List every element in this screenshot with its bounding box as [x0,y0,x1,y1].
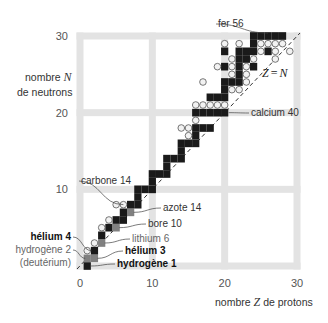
stable-nuclide [185,140,192,148]
annotation-label: hélium 4 [30,231,71,242]
stable-nuclide [163,163,170,171]
stable-nuclide [113,224,120,232]
unstable-nuclide [200,102,207,109]
unstable-nuclide [185,125,192,132]
unstable-nuclide [221,102,228,109]
unstable-nuclide [221,40,228,47]
unstable-nuclide [250,56,257,63]
stable-nuclide [156,170,163,178]
annotation-label: hydrogène 2 [15,244,71,255]
unstable-nuclide [178,125,185,132]
stable-nuclide [250,40,257,48]
unstable-nuclide [185,132,192,139]
annotation-label: azote 14 [163,202,202,213]
stable-nuclide [149,178,156,186]
annotation-leader [134,208,161,212]
stable-nuclide [120,216,127,224]
annotation-label: hydrogène 1 [117,258,177,269]
grid-line-horizontal [77,263,301,270]
stable-nuclide [141,186,148,194]
stable-nuclide [170,155,177,163]
stable-nuclide [192,140,199,148]
y-axis-title-line1: nombre N [25,70,73,84]
unstable-nuclide [258,48,265,55]
stable-nuclide [221,86,228,94]
stable-nuclide [178,140,185,148]
y-tick-label: 20 [56,107,68,119]
stable-nuclide [199,109,206,117]
stable-nuclide [120,209,127,217]
stable-nuclide [264,48,271,56]
grid-line-vertical [77,33,84,270]
stable-nuclide [236,55,243,63]
stable-nuclide [134,193,141,201]
stable-nuclide [236,71,243,79]
unstable-nuclide [243,79,250,86]
unstable-nuclide [243,71,250,78]
y-tick-label: 10 [56,183,68,195]
annotation-label: bore 10 [148,218,182,229]
annotation-label: fer 56 [218,18,244,29]
y-axis-title-line2: de neutrons [17,86,72,98]
unstable-nuclide [286,48,293,55]
unstable-nuclide [236,40,243,47]
stable-nuclide [250,63,257,71]
stable-nuclide [214,109,221,117]
stable-nuclide [221,48,228,56]
unstable-nuclide [229,56,236,63]
stable-nuclide [98,232,105,240]
stable-nuclide [221,78,228,86]
stable-nuclide [134,201,141,209]
annotation-label: carbone 14 [81,175,131,186]
stable-nuclide [221,63,228,71]
x-tick-label: 10 [146,277,158,289]
unstable-nuclide [229,63,236,70]
stable-nuclide [149,186,156,194]
y-tick-label: 30 [56,30,68,42]
stable-nuclide [236,63,243,71]
annotation-leader [105,239,130,243]
stable-nuclide [250,32,257,40]
unstable-nuclide [229,86,236,93]
unstable-nuclide [200,79,207,86]
unstable-nuclide [91,240,98,247]
stable-nuclide [207,124,214,132]
unstable-nuclide [272,56,279,63]
annotation-leader [119,224,146,228]
unstable-nuclide [207,102,214,109]
x-tick-label: 30 [291,277,303,289]
nuclide-chart: 0102030102030 fer 56calcium 40carbone 14… [0,0,328,323]
stable-nuclide [91,247,98,255]
stable-nuclide [236,48,243,56]
unstable-nuclide [214,63,221,70]
stable-nuclide [236,78,243,86]
diagonal-label: Z=N [262,66,288,80]
stable-nuclide [178,155,185,163]
unstable-nuclide [272,48,279,55]
stable-nuclide [207,109,214,117]
unstable-nuclide [272,40,279,47]
stable-nuclide [127,201,134,209]
stable-nuclide [134,186,141,194]
stable-nuclide [243,55,250,63]
stable-nuclide [279,32,286,40]
annotation-label: lithium 6 [132,233,170,244]
unstable-nuclide [106,217,113,224]
stable-nuclide [113,216,120,224]
stable-nuclide [257,32,264,40]
x-tick-label: 0 [77,277,83,289]
stable-nuclide [207,94,214,102]
stable-nuclide [272,32,279,40]
stable-nuclide [250,48,257,56]
stable-nuclide [221,94,228,102]
stable-nuclide [243,48,250,56]
stable-nuclide [192,109,199,117]
unstable-nuclide [229,71,236,78]
unstable-nuclide [98,224,105,231]
stable-nuclide [98,239,105,247]
x-axis-title: nombre Z de protons [215,295,313,309]
stable-nuclide [127,209,134,217]
unstable-nuclide [214,102,221,109]
annotations: fer 56calcium 40carbone 14azote 14bore 1… [15,18,299,269]
annotation-label: calcium 40 [251,107,299,118]
